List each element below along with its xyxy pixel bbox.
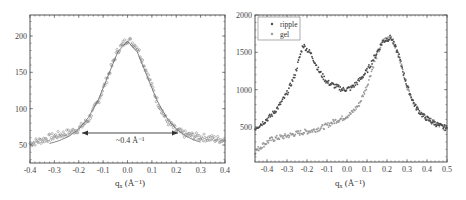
ripple-data-point [317,69,319,71]
ripple-data-point [389,35,391,37]
gel-data-point [402,69,404,71]
ripple-data-point [262,121,264,123]
left-x-tick-labels: -0.4-0.3-0.2-0.10.00.10.20.30.4 [24,166,230,175]
data-point [124,39,126,41]
ripple-data-point [304,45,306,47]
left-x-axis-title: qx (Å⁻¹) [115,178,145,189]
data-point [167,124,169,126]
ripple-data-point [297,61,299,63]
gel-data-point [362,96,364,98]
data-point [116,48,118,50]
ripple-data-point [421,112,423,114]
data-point [34,144,36,146]
data-point [202,140,204,142]
ripple-data-point [386,38,388,40]
ripple-data-point [280,103,282,105]
ripple-data-point [303,47,305,49]
ripple-data-point [412,100,414,102]
data-point [213,136,215,138]
ripple-data-point [394,44,396,46]
gel-data-point [268,142,270,144]
x-tick-label: -0.4 [261,165,274,174]
ripple-data-point [339,86,341,88]
legend-gel-marker [271,33,273,35]
y-tick-label: 500 [240,123,252,132]
y-tick-label: 200 [15,32,27,41]
data-point [49,139,51,141]
ripple-data-point [444,124,446,126]
gel-data-point [360,100,362,102]
gel-data-point [302,134,304,136]
ripple-data-point [424,117,426,119]
ripple-data-point [410,97,412,99]
right-plot: -0.4-0.3-0.2-0.10.00.10.20.30.40.5 50010… [236,11,452,189]
ripple-data-point [291,84,293,86]
ripple-data-point [426,119,428,121]
gel-data-point [335,119,337,121]
ripple-data-point [266,118,268,120]
ripple-data-point [312,57,314,59]
gel-data-point [364,93,366,95]
ripple-data-point [357,83,359,85]
gel-data-point [333,122,335,124]
ripple-data-point [356,82,358,84]
gel-data-point [289,135,291,137]
right-y-tick-labels: 500100015002000 [236,11,252,132]
ripple-data-point [296,67,298,69]
gel-data-point [323,128,325,130]
x-tick-label: 0.0 [123,166,133,175]
legend: ripple gel [258,17,300,40]
ripple-data-point [366,68,368,70]
x-tick-label: -0.4 [24,166,37,175]
ripple-data-point [322,73,324,75]
ripple-data-point [429,118,431,120]
data-point [183,136,185,138]
ripple-data-point [362,76,364,78]
ripple-data-point [264,122,266,124]
ripple-data-point [403,74,405,76]
gel-data-point [365,89,367,91]
ripple-data-point [379,49,381,51]
ripple-data-point [368,64,370,66]
ripple-data-point [339,89,341,91]
gel-data-point [322,124,324,126]
y-tick-label: 2000 [236,11,252,20]
ripple-data-point [367,71,369,73]
ripple-data-point [298,59,300,61]
ripple-data-point [294,74,296,76]
gel-data-point [315,131,317,133]
gel-data-point [299,134,301,136]
ripple-data-point [286,90,288,92]
gel-data-point [328,126,330,128]
right-x-tick-labels: -0.4-0.3-0.2-0.10.00.10.20.30.40.5 [261,165,452,174]
data-point [62,131,64,133]
x-tick-label: -0.3 [281,165,294,174]
data-point [203,133,205,135]
ripple-data-point [410,94,412,96]
legend-ripple-marker [271,23,273,25]
ripple-data-point [397,51,399,53]
gel-data-point [358,105,360,107]
ripple-data-point [277,106,279,108]
ripple-data-point [413,102,415,104]
ripple-data-point [355,84,357,86]
ripple-data-point [364,73,366,75]
x-tick-label: 0.3 [402,165,412,174]
ripple-data-point [434,121,436,123]
gel-data-point [399,62,401,64]
y-tick-label: 100 [15,105,27,114]
ripple-data-point [442,125,444,127]
ripple-data-point [294,77,296,79]
data-point [122,41,124,43]
ripple-data-point [346,89,348,91]
data-point [57,131,59,133]
ripple-data-point [267,120,269,122]
gel-data-point [266,143,268,145]
ripple-data-point [381,41,383,43]
ripple-data-point [353,86,355,88]
gel-data-point [310,131,312,133]
ripple-data-point [444,129,446,131]
gel-data-point [350,113,352,115]
ripple-data-point [309,49,311,51]
data-point [184,130,186,132]
